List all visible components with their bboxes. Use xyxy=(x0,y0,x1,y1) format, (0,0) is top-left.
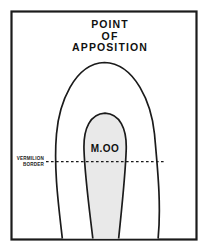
title-line-2: OF xyxy=(102,30,119,42)
title-line-3: APPOSITION xyxy=(72,41,148,53)
title-line-1: POINT xyxy=(91,18,129,30)
figure-root: POINT OF APPOSITION M.OO VERMILION BORDE… xyxy=(0,0,210,250)
diagram-canvas: POINT OF APPOSITION M.OO VERMILION BORDE… xyxy=(0,0,210,250)
vermilion-border-label-line-2: BORDER xyxy=(23,162,44,167)
vermilion-border-label-line-1: VERMILION xyxy=(17,156,45,161)
inner-orbicularis-oris-shape xyxy=(84,113,126,240)
inner-shape-label: M.OO xyxy=(91,143,119,154)
